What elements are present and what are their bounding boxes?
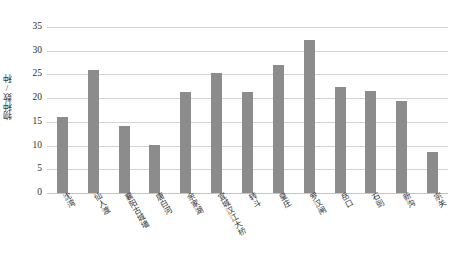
x-tick-label: 沈湾 xyxy=(60,192,75,210)
x-tick-label: 皇庄 xyxy=(276,192,291,210)
bar xyxy=(427,152,438,193)
y-axis-tick-labels: 05101520253035 xyxy=(18,27,42,193)
bar xyxy=(396,101,407,193)
x-tick-label: 仙人渡 xyxy=(91,192,110,217)
y-tick-label: 10 xyxy=(33,141,43,151)
x-tick-label: 宗关 xyxy=(431,192,446,210)
bar xyxy=(242,92,253,193)
bar xyxy=(88,70,99,193)
x-tick-label: 石剅 xyxy=(369,192,384,210)
bar xyxy=(119,126,130,193)
x-tick-label: 唐白河 xyxy=(153,192,172,217)
bar xyxy=(273,65,284,193)
y-axis-title: 物种数/种 xyxy=(2,74,16,120)
x-tick-label: 襄阳古城墙 xyxy=(122,192,149,231)
x-axis-tick-labels: 沈湾仙人渡襄阳古城墙唐白河余家湖宜城汉江大桥转斗皇庄罗汉闸岳口石剅新沟宗关 xyxy=(47,196,448,276)
bar xyxy=(335,87,346,193)
bar xyxy=(149,145,160,193)
bar-chart: 物种数/种 05101520253035 沈湾仙人渡襄阳古城墙唐白河余家湖宜城汉… xyxy=(0,0,458,277)
x-tick-label: 余家湖 xyxy=(184,192,203,217)
y-tick-label: 25 xyxy=(33,70,43,80)
x-tick-label: 岳口 xyxy=(338,192,353,210)
x-tick-label: 转斗 xyxy=(246,192,261,210)
y-tick-label: 35 xyxy=(33,22,43,32)
x-tick-label: 新沟 xyxy=(400,192,415,210)
y-tick-label: 20 xyxy=(33,93,43,103)
bar xyxy=(304,40,315,193)
y-tick-label: 0 xyxy=(37,188,42,198)
x-tick-label: 宜城汉江大桥 xyxy=(215,192,246,238)
bar xyxy=(57,117,68,193)
bar xyxy=(365,91,376,193)
y-tick-label: 30 xyxy=(33,46,43,56)
x-tick-label: 罗汉闸 xyxy=(307,192,326,217)
bar xyxy=(180,92,191,193)
bar xyxy=(211,73,222,193)
y-tick-label: 15 xyxy=(33,117,43,127)
bar-series xyxy=(47,27,448,193)
y-tick-label: 5 xyxy=(37,165,42,175)
